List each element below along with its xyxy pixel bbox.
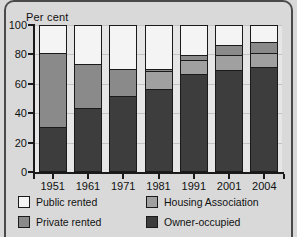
- bar-segment-housing-association-2004: [251, 54, 277, 69]
- legend-item-housing-association[interactable]: Housing Association: [146, 196, 259, 208]
- x-axis-tick: [228, 174, 230, 179]
- bar-segment-public-rented-2001: [216, 26, 242, 46]
- x-axis-end-tick: [283, 174, 285, 179]
- legend-item-private-rented[interactable]: Private rented: [18, 216, 101, 228]
- legend-swatch-owner-occupied: [146, 216, 158, 228]
- x-axis-tick-label: 2001: [217, 180, 241, 192]
- legend-swatch-housing-association: [146, 196, 158, 208]
- bar-segment-owner-occupied-1991: [181, 75, 207, 171]
- y-axis-tick-label: 80: [0, 48, 27, 60]
- bar-2001: [215, 25, 243, 172]
- bar-segment-owner-occupied-1961: [75, 109, 101, 171]
- bar-1971: [109, 25, 137, 172]
- bar-segment-owner-occupied-2001: [216, 71, 242, 171]
- bar-segment-private-rented-1961: [75, 65, 101, 109]
- bar-segment-public-rented-1991: [181, 26, 207, 56]
- y-axis-line: [33, 24, 35, 173]
- y-axis-tick: [28, 53, 33, 55]
- legend-item-owner-occupied[interactable]: Owner-occupied: [146, 216, 240, 228]
- bar-segment-housing-association-1991: [181, 61, 207, 76]
- bar-1951: [39, 25, 67, 172]
- y-axis-tick: [28, 142, 33, 144]
- x-axis-start-tick: [33, 174, 35, 179]
- bar-1961: [74, 25, 102, 172]
- bar-segment-private-rented-1951: [40, 54, 66, 128]
- bar-2004: [250, 25, 278, 172]
- y-axis-tick-label: 100: [0, 19, 27, 31]
- x-axis-tick-label: 1971: [111, 180, 135, 192]
- x-axis-tick: [193, 174, 195, 179]
- x-axis-tick-label: 2004: [252, 180, 276, 192]
- x-axis-tick: [87, 174, 89, 179]
- legend-swatch-private-rented: [18, 216, 30, 228]
- figure-frame-right: [291, 10, 293, 237]
- bar-segment-private-rented-2004: [251, 43, 277, 53]
- bar-segment-owner-occupied-1981: [146, 90, 172, 171]
- x-axis-tick: [158, 174, 160, 179]
- y-axis-title: Per cent: [26, 11, 69, 23]
- legend-swatch-public-rented: [18, 196, 30, 208]
- y-axis-tick: [28, 112, 33, 114]
- bar-segment-housing-association-1981: [146, 72, 172, 89]
- legend-item-public-rented[interactable]: Public rented: [18, 196, 97, 208]
- bar-segment-housing-association-2001: [216, 56, 242, 71]
- x-axis-tick-label: 1961: [76, 180, 100, 192]
- y-axis-tick-label: 60: [0, 78, 27, 90]
- bar-segment-public-rented-1951: [40, 26, 66, 54]
- bar-segment-public-rented-1961: [75, 26, 101, 65]
- x-axis-tick: [52, 174, 54, 179]
- bar-segment-owner-occupied-2004: [251, 68, 277, 171]
- x-axis-tick: [122, 174, 124, 179]
- y-axis-tick: [28, 83, 33, 85]
- bar-segment-public-rented-1971: [110, 26, 136, 70]
- bar-1991: [180, 25, 208, 172]
- legend-label: Private rented: [36, 216, 101, 228]
- bar-segment-owner-occupied-1971: [110, 97, 136, 171]
- x-axis-tick: [263, 174, 265, 179]
- bar-segment-public-rented-2004: [251, 26, 277, 43]
- bar-segment-private-rented-2001: [216, 46, 242, 56]
- bar-segment-private-rented-1971: [110, 70, 136, 98]
- legend-label: Public rented: [36, 196, 97, 208]
- bar-segment-public-rented-1981: [146, 26, 172, 70]
- chart-figure: Per cent 020406080100 Public rentedHousi…: [0, 0, 297, 237]
- chart-legend: Public rentedHousing AssociationPrivate …: [18, 196, 280, 234]
- legend-label: Owner-occupied: [164, 216, 240, 228]
- y-axis-tick-label: 0: [0, 166, 27, 178]
- bar-1981: [145, 25, 173, 172]
- x-axis-tick-label: 1981: [146, 180, 170, 192]
- x-axis-tick-label: 1951: [40, 180, 64, 192]
- legend-label: Housing Association: [164, 196, 259, 208]
- x-axis-tick-label: 1991: [182, 180, 206, 192]
- y-axis-tick: [28, 24, 33, 26]
- y-axis-tick-label: 20: [0, 137, 27, 149]
- y-axis-tick-label: 40: [0, 107, 27, 119]
- bar-segment-owner-occupied-1951: [40, 128, 66, 171]
- y-axis-tick: [28, 171, 33, 173]
